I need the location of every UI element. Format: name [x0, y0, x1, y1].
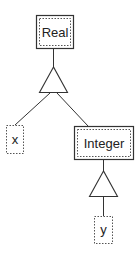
node-integer-label: Integer — [84, 136, 125, 151]
node-real: Real — [37, 16, 74, 49]
tri1-connector — [40, 67, 68, 93]
node-y: y — [95, 217, 113, 244]
tri2-connector — [90, 171, 118, 197]
node-y-label: y — [100, 222, 107, 237]
node-real-label: Real — [42, 25, 69, 40]
edge-tri1-to-integer — [57, 93, 88, 126]
node-integer: Integer — [75, 127, 134, 160]
type-hierarchy-diagram: Real x Integer y — [0, 0, 139, 258]
node-x: x — [7, 126, 24, 154]
edge-tri1-to-x — [15, 93, 50, 125]
node-x-label: x — [12, 132, 19, 147]
